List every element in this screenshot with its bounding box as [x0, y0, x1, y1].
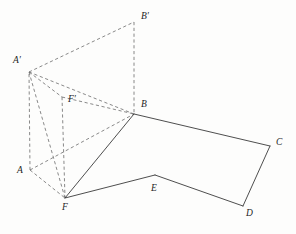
edge-E-F	[65, 175, 155, 198]
edge-C-D	[243, 146, 270, 206]
edge-B-C	[134, 114, 270, 146]
edge-A-B	[30, 114, 134, 170]
vertex-label-D: D	[246, 209, 253, 219]
solid-edge-group	[65, 114, 270, 206]
edge-Aprime-F	[29, 72, 65, 198]
dashed-edge-group	[29, 22, 134, 198]
edge-Fprime-F	[62, 97, 65, 198]
vertex-label-C: C	[276, 138, 282, 148]
geometry-canvas	[0, 0, 296, 234]
edge-D-E	[155, 175, 243, 206]
vertex-label-F: F	[62, 203, 68, 213]
vertex-label-B-prime: B′	[141, 12, 149, 22]
vertex-label-B: B	[141, 100, 147, 110]
edge-F-B	[65, 114, 134, 198]
vertex-label-E: E	[151, 184, 157, 194]
edge-Aprime-Fprime	[29, 72, 62, 97]
geometry-figure-container: A B C D E F A′ B′ F′	[0, 0, 296, 234]
edge-Aprime-Bprime	[29, 22, 134, 72]
edge-A-Aprime	[29, 72, 30, 170]
vertex-label-A: A	[17, 166, 23, 176]
edge-A-F	[30, 170, 65, 198]
vertex-label-F-prime: F′	[68, 95, 76, 105]
vertex-label-A-prime: A′	[13, 56, 21, 66]
edge-Aprime-B	[29, 72, 134, 114]
